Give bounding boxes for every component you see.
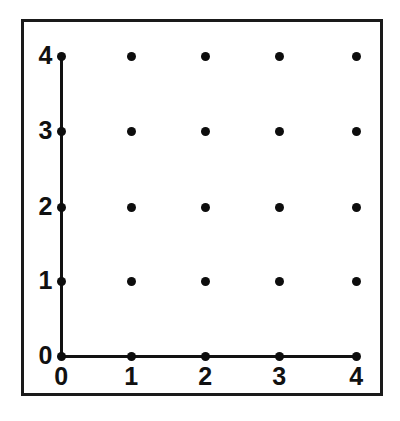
lattice-point [57, 352, 66, 361]
lattice-point [127, 277, 136, 286]
lattice-point [201, 203, 210, 212]
lattice-point [201, 277, 210, 286]
plot-area: 4 3 2 1 0 0 1 2 3 4 [0, 0, 400, 421]
lattice-point [275, 203, 284, 212]
lattice-point [57, 203, 66, 212]
x-tick-label-1: 1 [116, 364, 146, 389]
lattice-point [127, 127, 136, 136]
lattice-point [275, 277, 284, 286]
lattice-point [57, 127, 66, 136]
lattice-point [127, 352, 136, 361]
lattice-point [275, 352, 284, 361]
y-tick-label-2: 2 [26, 194, 52, 219]
lattice-point [201, 127, 210, 136]
lattice-point [352, 277, 361, 286]
x-tick-label-4: 4 [341, 364, 371, 389]
lattice-point [201, 352, 210, 361]
x-tick-label-0: 0 [46, 364, 76, 389]
lattice-point [275, 52, 284, 61]
y-tick-label-4: 4 [26, 43, 52, 68]
lattice-point [352, 203, 361, 212]
lattice-point [352, 52, 361, 61]
lattice-point [57, 52, 66, 61]
lattice-point [275, 127, 284, 136]
x-tick-label-2: 2 [190, 364, 220, 389]
lattice-point [127, 203, 136, 212]
x-tick-label-3: 3 [264, 364, 294, 389]
figure-canvas: 4 3 2 1 0 0 1 2 3 4 [0, 0, 400, 421]
lattice-point [201, 52, 210, 61]
lattice-point [57, 277, 66, 286]
y-tick-label-1: 1 [26, 268, 52, 293]
y-tick-label-3: 3 [26, 118, 52, 143]
lattice-point [352, 127, 361, 136]
lattice-point [127, 52, 136, 61]
lattice-point [352, 352, 361, 361]
